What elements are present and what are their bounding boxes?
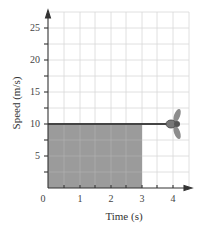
y-tick-15: 15 [30, 86, 40, 97]
propeller-icon [166, 108, 182, 140]
speed-time-chart: 5 10 15 20 25 0 1 2 3 4 Time (s) Speed (… [0, 0, 201, 231]
x-tick-0: 0 [41, 193, 46, 204]
y-axis-title: Speed (m/s) [10, 76, 23, 129]
y-tick-25: 25 [30, 22, 40, 33]
y-tick-20: 20 [30, 54, 40, 65]
x-tick-1: 1 [78, 193, 83, 204]
x-tick-2: 2 [109, 193, 114, 204]
x-tick-4: 4 [171, 193, 176, 204]
x-axis-title: Time (s) [105, 210, 143, 223]
x-tick-3: 3 [140, 193, 145, 204]
y-tick-10: 10 [30, 118, 40, 129]
y-tick-5: 5 [35, 150, 40, 161]
